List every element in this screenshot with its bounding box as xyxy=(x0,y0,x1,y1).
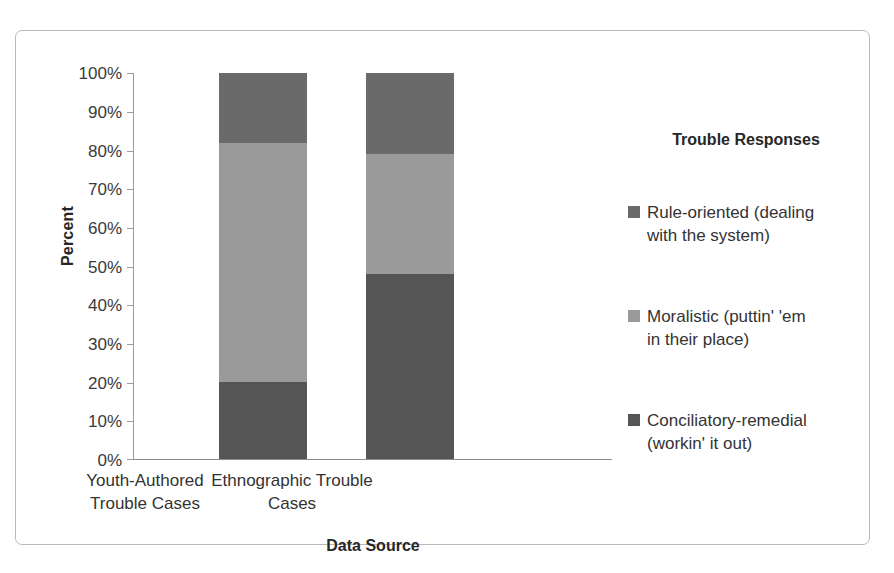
legend-title: Trouble Responses xyxy=(628,131,864,149)
legend-swatch-icon xyxy=(628,310,640,322)
plot-area xyxy=(134,73,611,459)
legend-item-label: Rule-oriented (dealingwith the system) xyxy=(647,201,814,247)
bar-segment-conciliatory-remedial[interactable] xyxy=(219,382,307,459)
category-label-line1: Ethnographic Trouble xyxy=(197,469,387,492)
y-tick-label-100: 100% xyxy=(60,65,122,82)
legend-item-moralistic[interactable]: Moralistic (puttin' 'emin their place) xyxy=(628,305,876,351)
legend-item-label: Conciliatory-remedial(workin' it out) xyxy=(647,409,807,455)
legend-label-line2: in their place) xyxy=(647,330,749,349)
legend-label-line1: Conciliatory-remedial xyxy=(647,411,807,430)
x-axis-line xyxy=(134,459,612,460)
legend: Trouble Responses Rule-oriented (dealing… xyxy=(628,131,876,513)
bar-segment-conciliatory-remedial[interactable] xyxy=(366,274,454,459)
bar-segment-moralistic[interactable] xyxy=(219,143,307,382)
legend-swatch-icon xyxy=(628,206,640,218)
legend-item-rule-oriented[interactable]: Rule-oriented (dealingwith the system) xyxy=(628,201,876,247)
y-tick-label-0: 0% xyxy=(60,452,122,469)
bar-segment-rule-oriented[interactable] xyxy=(219,73,307,142)
legend-swatch-icon xyxy=(628,414,640,426)
chart-frame: Percent 100% 90% 80% 70% 60% 50% 40% 30%… xyxy=(15,30,870,545)
y-tick-label-10: 10% xyxy=(60,413,122,430)
legend-label-line1: Moralistic (puttin' 'em xyxy=(647,307,806,326)
bar-ethnographic-trouble-cases[interactable] xyxy=(366,73,454,459)
y-tick-label-80: 80% xyxy=(60,143,122,160)
y-tick-label-50: 50% xyxy=(60,259,122,276)
bar-youth-authored-trouble-cases[interactable] xyxy=(219,73,307,459)
category-label-line2: Cases xyxy=(197,492,387,515)
legend-label-line2: (workin' it out) xyxy=(647,434,752,453)
bar-segment-moralistic[interactable] xyxy=(366,154,454,274)
y-tick-label-70: 70% xyxy=(60,181,122,198)
y-tick-label-30: 30% xyxy=(60,336,122,353)
legend-label-line2: with the system) xyxy=(647,226,770,245)
x-axis-category-label-1: Ethnographic Trouble Cases xyxy=(197,469,387,515)
y-tick-label-40: 40% xyxy=(60,297,122,314)
x-axis-title: Data Source xyxy=(134,537,612,555)
bar-segment-rule-oriented[interactable] xyxy=(366,73,454,154)
legend-item-label: Moralistic (puttin' 'emin their place) xyxy=(647,305,806,351)
legend-item-conciliatory-remedial[interactable]: Conciliatory-remedial(workin' it out) xyxy=(628,409,876,455)
y-tick-label-90: 90% xyxy=(60,104,122,121)
legend-label-line1: Rule-oriented (dealing xyxy=(647,203,814,222)
y-tick-label-60: 60% xyxy=(60,220,122,237)
y-tick-label-20: 20% xyxy=(60,375,122,392)
